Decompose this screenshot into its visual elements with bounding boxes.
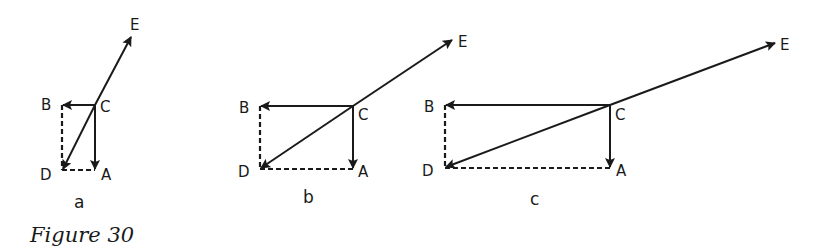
vector-c-e [610,43,775,105]
point-label-d: D [238,163,250,181]
vector-c-d [63,105,95,169]
panel-label-c: c [530,189,539,209]
point-label-a: A [358,163,369,181]
vector-c-e [95,37,131,105]
point-label-e: E [458,33,467,51]
point-label-a: A [616,162,627,180]
figure-caption: Figure 30 [29,223,134,247]
panel-b: B C D A E b [238,33,467,207]
vector-c-d [261,106,353,168]
point-label-b: B [424,98,434,116]
point-label-b: B [239,99,249,117]
vector-c-e [353,40,452,106]
point-label-c: C [100,98,110,116]
vector-c-d [446,105,610,167]
point-label-a: A [101,166,112,184]
panel-label-b: b [303,187,314,207]
panel-a: B C D A E a [40,16,139,212]
point-label-c: C [615,106,625,124]
point-label-d: D [422,162,434,180]
point-label-e: E [130,16,139,34]
panel-c: B C D A E c [422,36,789,209]
point-label-e: E [780,36,789,54]
point-label-d: D [40,166,52,184]
panel-label-a: a [74,192,84,212]
figure-30-diagram: B C D A E a B C D A E b B C D A E c Figu… [0,0,831,247]
point-label-b: B [41,96,51,114]
point-label-c: C [358,106,368,124]
